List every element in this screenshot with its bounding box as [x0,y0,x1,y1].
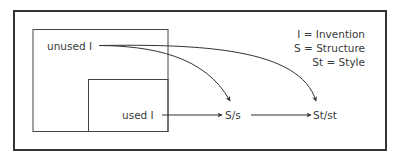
node-structure: S/s [225,109,241,121]
arrow-unused-to-structure [99,46,230,102]
node-style: St/st [313,109,337,121]
node-used-invention: used I [122,109,154,121]
legend: I = Invention S = Structure St = Style [294,28,365,68]
diagram-canvas: unused I used I S/s St/st I = Invention … [0,0,397,159]
legend-style: St = Style [312,56,365,68]
legend-invention: I = Invention [297,28,365,40]
used-invention-box [89,80,169,132]
node-unused-invention: unused I [47,40,92,52]
legend-structure: S = Structure [294,42,365,54]
arrow-unused-to-style [99,45,316,101]
